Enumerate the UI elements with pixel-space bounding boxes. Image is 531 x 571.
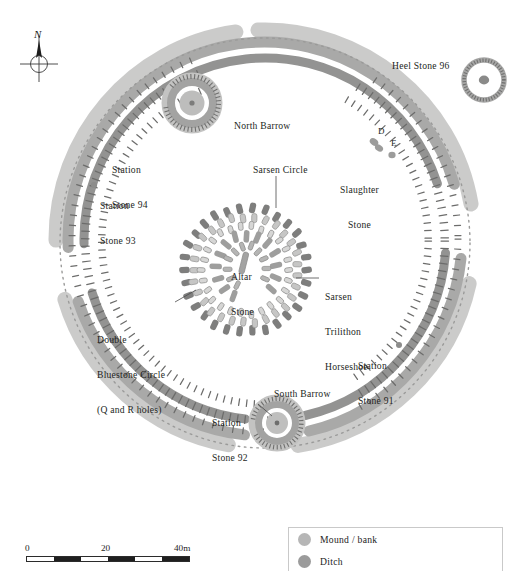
label-line: Altar <box>231 271 254 283</box>
label-line: North Barrow <box>234 120 291 131</box>
label-double-bluestone-circle: Double Bluestone Circle (Q and R holes) <box>97 311 165 439</box>
label-line: E <box>391 138 397 148</box>
legend-item: Ditch <box>289 550 502 571</box>
label-line: Stone 92 <box>212 452 248 464</box>
legend: Mound / bankDitch <box>288 527 503 571</box>
label-line: Station <box>100 200 136 212</box>
label-station-stone-91: Station Stone 91 <box>358 337 394 430</box>
legend-label: Ditch <box>320 556 343 567</box>
scale-tick-0: 0 <box>25 543 30 553</box>
scale-bar-segment <box>162 557 189 561</box>
north-arrow-icon <box>20 36 58 82</box>
scale-bar-segment <box>108 557 135 561</box>
label-line: Stone <box>340 219 379 231</box>
label-slaughter-stone: Slaughter Stone <box>340 161 379 254</box>
label-stone-d: D <box>378 126 385 138</box>
legend-swatch-icon <box>298 533 311 546</box>
label-line: Station <box>212 417 248 429</box>
label-line: Stone 93 <box>100 235 136 247</box>
label-sarsen-circle: Sarsen Circle <box>253 164 308 176</box>
heel-stone-96 <box>462 58 505 101</box>
label-line: Station <box>358 360 394 372</box>
scale-bar-segment <box>81 557 108 561</box>
label-line: Station <box>112 164 148 176</box>
label-heel-stone-96: Heel Stone 96 <box>392 60 450 72</box>
label-line: (Q and R holes) <box>97 404 165 416</box>
label-altar-stone: Altar Stone <box>231 248 254 341</box>
label-line: D <box>378 126 385 136</box>
label-line: South Barrow <box>274 388 331 399</box>
label-line: Slaughter <box>340 184 379 196</box>
north-letter: N <box>34 28 41 40</box>
label-station-stone-92: Station Stone 92 <box>212 394 248 487</box>
label-line: Sarsen <box>325 291 368 303</box>
scale-bar-segment <box>27 557 54 561</box>
label-line: Bluestone Circle <box>97 369 165 381</box>
label-south-barrow: South Barrow <box>274 388 331 400</box>
label-line: Heel Stone 96 <box>392 60 450 71</box>
station-stone-93-marker <box>91 182 97 188</box>
label-line: Double <box>97 334 165 346</box>
scale-bar <box>26 556 190 562</box>
legend-swatch-icon <box>298 555 311 568</box>
label-station-stone-93: Station Stone 93 <box>100 177 136 270</box>
legend-item: Mound / bank <box>289 528 502 550</box>
label-north-barrow: North Barrow <box>234 120 291 132</box>
label-line: Stone 91 <box>358 395 394 407</box>
label-stone-e: E <box>391 138 397 150</box>
scale-tick-20: 20 <box>101 543 110 553</box>
north-barrow <box>163 74 221 132</box>
label-line: Stone <box>231 306 254 318</box>
scale-tick-40: 40m <box>174 543 190 553</box>
scale-bar-segment <box>135 557 162 561</box>
station-stone-91-marker <box>396 342 402 348</box>
label-line: Sarsen Circle <box>253 164 308 175</box>
legend-label: Mound / bank <box>320 534 377 545</box>
label-line: Trilithon <box>325 326 368 338</box>
scale-bar-segment <box>54 557 81 561</box>
